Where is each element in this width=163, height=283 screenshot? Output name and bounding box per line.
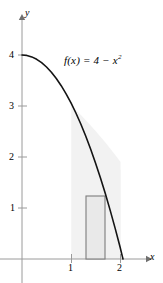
function-equation-label: f(x) = 4 − x2 (64, 54, 122, 66)
function-plot-figure: f(x) = 4 − x2 4 3 2 1 1 2 y x (0, 0, 163, 283)
y-axis-tick-label-3: 3 (9, 101, 14, 111)
x-axis-tick-label-1: 1 (68, 263, 73, 273)
y-axis-label: y (25, 8, 29, 18)
function-equation-text: f(x) = 4 − x (64, 54, 118, 66)
approximating-rectangle (86, 196, 105, 259)
x-axis-label: x (150, 252, 154, 262)
y-axis-tick-label-1: 1 (10, 203, 15, 213)
y-axis-tick-label-2: 2 (9, 152, 14, 162)
x-axis-tick-label-2: 2 (117, 263, 122, 273)
function-exponent: 2 (118, 53, 122, 61)
y-axis-tick-label-4: 4 (9, 50, 14, 60)
plot-canvas (0, 0, 163, 283)
